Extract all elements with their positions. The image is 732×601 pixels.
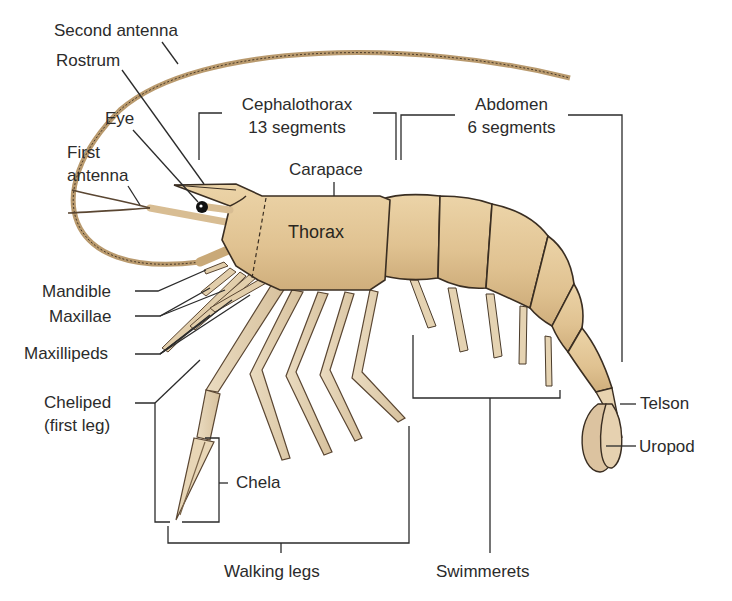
label-swimmerets: Swimmerets <box>436 562 530 582</box>
label-carapace: Carapace <box>289 160 363 180</box>
tail-fan <box>582 388 622 472</box>
label-eye: Eye <box>105 109 134 129</box>
label-cheliped-first-leg: (first leg) <box>44 416 110 436</box>
label-mandible: Mandible <box>42 282 111 302</box>
label-second-antenna: Second antenna <box>54 21 178 41</box>
label-first-antenna-line2: antenna <box>67 166 128 186</box>
label-maxillae: Maxillae <box>49 307 111 327</box>
walking-legs <box>176 284 405 520</box>
crayfish-anatomy-diagram: Second antenna Rostrum Eye First antenna… <box>0 0 732 601</box>
label-abdomen-segments: 6 segments <box>455 118 568 138</box>
label-cephalothorax-segments: 13 segments <box>222 118 372 138</box>
label-uropod: Uropod <box>639 437 695 457</box>
label-rostrum: Rostrum <box>56 51 120 71</box>
label-telson: Telson <box>640 394 689 414</box>
label-cephalothorax: Cephalothorax <box>222 95 372 115</box>
label-cheliped: Cheliped <box>44 393 111 413</box>
label-abdomen: Abdomen <box>455 95 568 115</box>
label-first-antenna-line1: First <box>67 143 100 163</box>
label-maxillipeds: Maxillipeds <box>24 344 108 364</box>
label-thorax: Thorax <box>288 222 344 242</box>
label-chela: Chela <box>236 473 280 493</box>
label-walking-legs: Walking legs <box>224 562 320 582</box>
